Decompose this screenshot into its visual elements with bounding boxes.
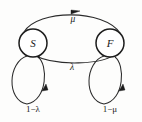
s-self-loop-path [12,56,45,104]
self-loop-s [12,56,48,104]
self-loop-label-f: 1−μ [103,104,118,114]
node-f[interactable]: F [96,29,124,57]
self-loop-f [89,56,125,104]
diagram-canvas: S F μ λ 1−λ 1−μ [0,0,142,122]
edge-label-mu: μ [70,14,76,24]
f-self-loop-path [89,56,122,104]
edge-label-lambda: λ [69,62,74,72]
self-loop-label-s: 1−λ [26,104,41,114]
node-s-label: S [30,37,36,49]
node-f-label: F [106,37,114,49]
node-s[interactable]: S [19,29,47,57]
state-transition-diagram: S F μ λ 1−λ 1−μ [0,0,142,122]
